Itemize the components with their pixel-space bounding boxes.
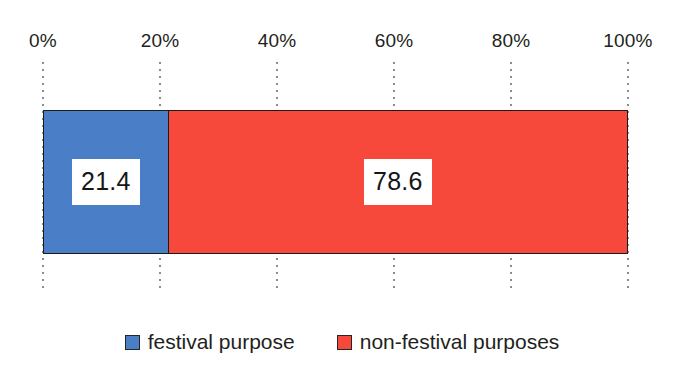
bar-value-label: 21.4 <box>72 159 140 205</box>
legend-item[interactable]: festival purpose <box>125 330 295 354</box>
x-axis-tick-label: 20% <box>141 28 180 54</box>
x-axis-tick-label: 80% <box>492 28 531 54</box>
legend-label: non-festival purposes <box>360 330 560 354</box>
x-axis-tick-label: 60% <box>375 28 414 54</box>
bar-segment: 21.4 <box>44 111 169 253</box>
legend-item[interactable]: non-festival purposes <box>337 330 560 354</box>
legend-label: festival purpose <box>148 330 295 354</box>
bar-segment: 78.6 <box>169 111 627 253</box>
legend-swatch-icon <box>125 335 140 350</box>
stacked-bar: 21.478.6 <box>43 110 628 254</box>
chart-legend: festival purposenon-festival purposes <box>0 326 684 358</box>
x-axis-tick-labels: 0%20%40%60%80%100% <box>0 28 684 54</box>
plot-area: 21.478.6 <box>43 110 628 254</box>
stacked-bar-chart: 0%20%40%60%80%100% 21.478.6 festival pur… <box>0 0 684 366</box>
x-axis-tick-label: 40% <box>258 28 297 54</box>
bar-value-label: 78.6 <box>364 159 432 205</box>
x-axis-tick-label: 0% <box>29 28 57 54</box>
x-axis-tick-label: 100% <box>603 28 652 54</box>
legend-swatch-icon <box>337 335 352 350</box>
